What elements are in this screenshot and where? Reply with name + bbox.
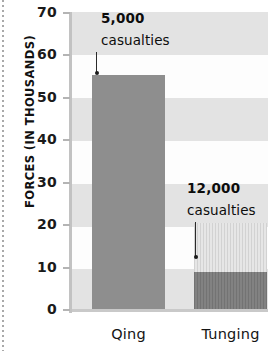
y-tick: [63, 54, 70, 56]
x-axis-baseline: [72, 309, 268, 312]
bar-qing[interactable]: [92, 75, 165, 309]
annotation-tunging-label: casualties: [187, 202, 256, 218]
y-tick: [63, 139, 70, 141]
bar-tunging[interactable]: [194, 223, 267, 309]
y-tick-label-30: 30: [13, 174, 57, 190]
bar-tunging-survivors: [194, 272, 267, 309]
y-tick-label-20: 20: [13, 216, 57, 232]
y-tick-label-70: 70: [13, 4, 57, 20]
annotation-qing-label: casualties: [101, 32, 170, 48]
y-tick: [63, 12, 70, 14]
y-tick: [63, 182, 70, 184]
y-tick-label-50: 50: [13, 89, 57, 105]
page-edge-rule: [2, 0, 4, 351]
y-tick-label-60: 60: [13, 46, 57, 62]
x-label-qing: Qing: [92, 326, 165, 342]
x-label-tunging: Tunging: [194, 326, 267, 342]
annotation-tunging-value: 12,000: [187, 180, 240, 196]
annotation-qing-value: 5,000: [101, 10, 145, 26]
annotation-qing-arrow-icon: [96, 52, 97, 74]
y-tick: [63, 224, 70, 226]
y-tick-label-0: 0: [13, 301, 57, 317]
y-tick: [63, 97, 70, 99]
annotation-tunging-arrow-icon: [195, 222, 196, 258]
y-tick: [63, 309, 70, 311]
y-tick: [63, 267, 70, 269]
y-tick-label-10: 10: [13, 259, 57, 275]
plot-area: [72, 12, 268, 312]
y-tick-label-40: 40: [13, 131, 57, 147]
bar-chart: FORCES (IN THOUSANDS) 70 60 50 40 30 20 …: [0, 0, 269, 351]
